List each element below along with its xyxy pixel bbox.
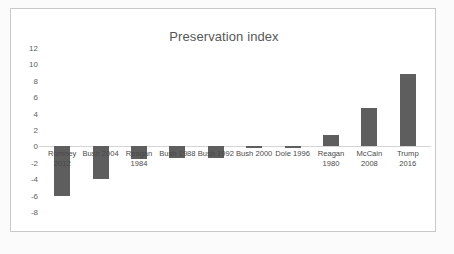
bar-column — [81, 48, 119, 212]
y-tick-label: -2 — [16, 158, 38, 167]
y-tick-label: 8 — [16, 76, 38, 85]
x-axis-label-line2: 1984 — [126, 159, 153, 169]
bar-column — [350, 48, 388, 212]
x-axis-label-line1: Bush 1988 — [159, 149, 195, 159]
x-axis-label: McCain2008 — [357, 149, 383, 168]
y-tick-label: -6 — [16, 191, 38, 200]
x-axis-label-line1: McCain — [357, 149, 383, 159]
screenshot-root: Preservation index 121086420-2-4-6-8 Rom… — [0, 0, 454, 254]
y-tick-label: 2 — [16, 126, 38, 135]
bar-column — [158, 48, 196, 212]
x-axis-label: Bush 1992 — [198, 149, 234, 159]
chart-frame: Preservation index 121086420-2-4-6-8 Rom… — [10, 8, 436, 232]
x-axis-label: Reagan1984 — [126, 149, 153, 168]
bar[interactable] — [361, 108, 377, 147]
bar-column — [273, 48, 311, 212]
bar-column — [120, 48, 158, 212]
y-tick-label: 0 — [16, 142, 38, 151]
x-axis-label: Bush 1988 — [159, 149, 195, 159]
y-tick-label: -4 — [16, 175, 38, 184]
x-axis-label-line1: Dole 1996 — [275, 149, 310, 159]
x-axis-label-line2: 2008 — [357, 159, 383, 169]
x-axis-label: Trump2016 — [397, 149, 419, 168]
bar[interactable] — [246, 146, 262, 148]
y-tick-label: 10 — [16, 60, 38, 69]
x-axis-label: Romney2012 — [48, 149, 76, 168]
x-axis-label-line1: Bush 1992 — [198, 149, 234, 159]
bar[interactable] — [323, 135, 339, 146]
x-axis-label: Reagan1980 — [318, 149, 345, 168]
plot-area: 121086420-2-4-6-8 Romney2012Bush 2004Rea… — [43, 48, 427, 212]
x-axis-label-line2: 2012 — [48, 159, 76, 169]
bar[interactable] — [400, 74, 416, 146]
y-tick-label: 12 — [16, 44, 38, 53]
x-axis-label-line1: Reagan — [318, 149, 345, 159]
bar-series — [43, 48, 427, 212]
x-axis-label-line2: 1980 — [318, 159, 345, 169]
x-axis-label-line1: Trump — [397, 149, 419, 159]
x-axis-label-line2: 2016 — [397, 159, 419, 169]
chart-title: Preservation index — [11, 29, 437, 44]
x-axis-label: Dole 1996 — [275, 149, 310, 159]
bar[interactable] — [285, 146, 301, 148]
x-axis-label-line1: Bush 2004 — [82, 149, 118, 159]
bar-column — [312, 48, 350, 212]
x-axis-label-line1: Bush 2000 — [236, 149, 272, 159]
bar-column — [43, 48, 81, 212]
y-tick-label: 4 — [16, 109, 38, 118]
x-axis-label: Bush 2004 — [82, 149, 118, 159]
bar-column — [389, 48, 427, 212]
y-tick-label: -8 — [16, 208, 38, 217]
x-axis-label-line1: Romney — [48, 149, 76, 159]
x-axis-label: Bush 2000 — [236, 149, 272, 159]
y-tick-label: 6 — [16, 93, 38, 102]
x-axis-label-line1: Reagan — [126, 149, 153, 159]
bar-column — [235, 48, 273, 212]
bar-column — [197, 48, 235, 212]
